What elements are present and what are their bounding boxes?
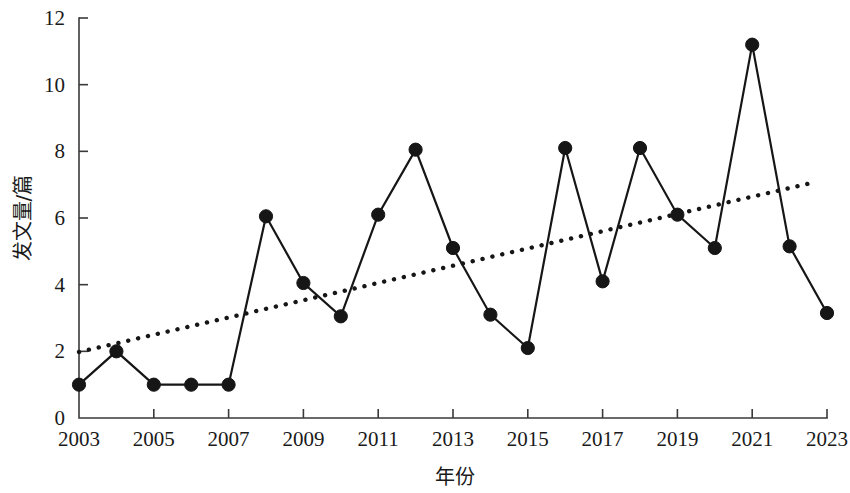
data-point-marker	[484, 308, 497, 321]
trend-line-layer	[79, 182, 816, 352]
y-tick-label: 2	[55, 339, 66, 363]
data-series-layer	[79, 45, 827, 385]
data-point-marker	[147, 378, 160, 391]
data-point-marker	[559, 141, 572, 154]
data-point-marker	[521, 341, 534, 354]
data-point-marker	[372, 208, 385, 221]
data-point-marker	[746, 38, 759, 51]
data-markers-layer	[72, 38, 833, 391]
data-point-marker	[671, 208, 684, 221]
x-tick-label: 2013	[432, 427, 474, 451]
x-tick-label: 2011	[358, 427, 399, 451]
y-tick-label: 8	[55, 139, 66, 163]
data-point-marker	[783, 240, 796, 253]
y-tick-label: 4	[55, 273, 66, 297]
axis-layer	[79, 18, 827, 418]
data-point-marker	[297, 276, 310, 289]
x-tick-label: 2019	[656, 427, 698, 451]
data-point-marker	[185, 378, 198, 391]
data-point-marker	[222, 378, 235, 391]
series-polyline	[79, 45, 827, 385]
y-axis-title: 发文量/篇	[11, 175, 35, 262]
data-point-marker	[409, 143, 422, 156]
trend-line	[79, 182, 816, 352]
tick-marks-layer	[79, 85, 752, 418]
x-axis-title: 年份	[435, 465, 475, 489]
data-point-marker	[446, 241, 459, 254]
x-tick-label: 2005	[133, 427, 175, 451]
data-point-marker	[259, 210, 272, 223]
data-point-marker	[820, 306, 833, 319]
x-tick-label: 2017	[582, 427, 624, 451]
chart-canvas: 0246810122003200520072009201120132015201…	[0, 0, 850, 493]
data-point-marker	[110, 345, 123, 358]
data-point-marker	[708, 241, 721, 254]
data-point-marker	[72, 378, 85, 391]
data-point-marker	[596, 275, 609, 288]
x-tick-label: 2007	[208, 427, 250, 451]
data-point-marker	[334, 310, 347, 323]
y-tick-label: 12	[44, 6, 65, 30]
y-tick-label: 6	[55, 206, 66, 230]
x-tick-label: 2023	[806, 427, 848, 451]
x-tick-label: 2015	[507, 427, 549, 451]
x-tick-label: 2021	[731, 427, 773, 451]
x-tick-label: 2009	[282, 427, 324, 451]
x-tick-label: 2003	[58, 427, 100, 451]
data-point-marker	[633, 141, 646, 154]
y-tick-label: 10	[44, 73, 65, 97]
chart-figure: 0246810122003200520072009201120132015201…	[0, 0, 850, 493]
axis-spines	[79, 18, 827, 418]
